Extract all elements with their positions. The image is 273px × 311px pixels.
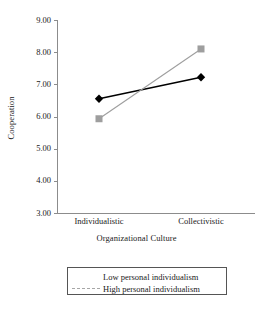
x-axis-tick-label: Collectivistic (146, 216, 256, 227)
y-axis-tick-label: 7.00 (17, 80, 51, 89)
interaction-line-chart: Cooperation 9.008.007.006.005.004.003.00… (0, 0, 273, 311)
y-axis-tick-label: 9.00 (17, 16, 51, 25)
y-axis-tick-label: 4.00 (17, 176, 51, 185)
series-line-1 (99, 49, 201, 119)
chart-legend: Low personal individualism High personal… (67, 267, 227, 295)
y-axis-tick-label: 8.00 (17, 48, 51, 57)
legend-key-high (72, 283, 100, 294)
data-point-marker (96, 115, 103, 122)
series-line-0 (99, 77, 201, 99)
legend-line-low (72, 276, 100, 277)
legend-label-high: High personal individualism (100, 284, 200, 294)
legend-entry-low: Low personal individualism (72, 271, 222, 282)
y-axis-tick-label: 6.00 (17, 112, 51, 121)
series-plot-layer (57, 20, 255, 213)
data-point-marker (198, 45, 205, 52)
x-axis-tick-label: Individualistic (44, 216, 154, 227)
legend-key-low (72, 271, 100, 282)
legend-label-low: Low personal individualism (100, 272, 198, 282)
data-point-marker (95, 95, 103, 103)
x-axis-tick-labels: IndividualisticCollectivistic (57, 216, 255, 230)
data-point-marker (197, 73, 205, 81)
x-axis-title: Organizational Culture (0, 233, 273, 243)
y-axis-title: Cooperation (6, 68, 16, 168)
plot-area (57, 20, 255, 213)
legend-entry-high: High personal individualism (72, 283, 222, 294)
y-axis-tick-labels: 9.008.007.006.005.004.003.00 (17, 0, 51, 311)
y-axis-tick (54, 213, 57, 214)
legend-line-high (72, 288, 100, 289)
y-axis-tick-label: 5.00 (17, 144, 51, 153)
x-axis-line (57, 213, 255, 214)
